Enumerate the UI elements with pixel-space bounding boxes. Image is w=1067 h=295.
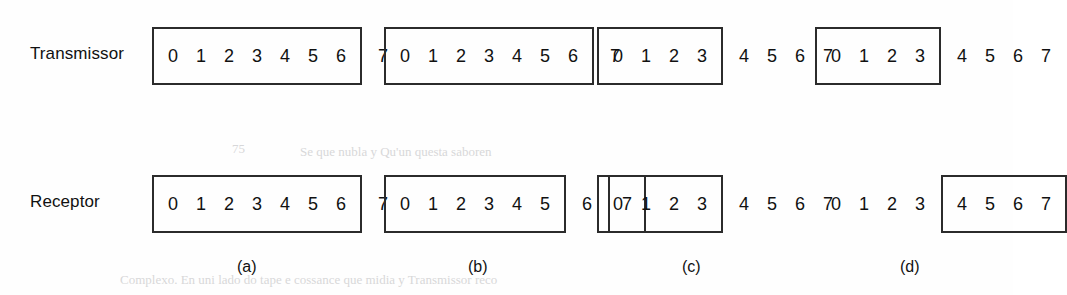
digit: 4 [274, 195, 296, 213]
window-box-transmissor-b: 0123456 [384, 27, 594, 85]
sequence-transmissor-c: 01234567 [597, 27, 849, 85]
digit: 2 [663, 47, 685, 65]
digit: 4 [274, 47, 296, 65]
digit: 0 [825, 47, 847, 65]
digit: 0 [162, 195, 184, 213]
digit: 2 [218, 195, 240, 213]
window-box-transmissor-c: 0123 [597, 27, 723, 85]
digit: 4 [951, 47, 973, 65]
digit: 0 [607, 195, 629, 213]
digit: 6 [789, 195, 811, 213]
digit: 3 [909, 195, 931, 213]
digit: 2 [450, 47, 472, 65]
caption-d: (d) [900, 258, 920, 276]
sequence-receptor-d: 01234567 [815, 175, 1067, 233]
digit: 3 [691, 195, 713, 213]
ghost-text-top: 75 [232, 142, 245, 157]
caption-b: (b) [468, 258, 488, 276]
window-box-transmissor-a: 0123456 [152, 27, 362, 85]
digit: 6 [1007, 195, 1029, 213]
digit: 3 [909, 47, 931, 65]
sequence-receptor-a: 01234567 [152, 175, 404, 233]
digit: 0 [607, 47, 629, 65]
digit: 5 [761, 195, 783, 213]
digit: 5 [761, 47, 783, 65]
digit: 3 [478, 195, 500, 213]
digit: 6 [330, 195, 352, 213]
digit: 1 [422, 195, 444, 213]
digit: 4 [506, 195, 528, 213]
digit: 3 [246, 195, 268, 213]
digit: 0 [394, 47, 416, 65]
digit: 4 [951, 195, 973, 213]
digit: 2 [881, 47, 903, 65]
digit: 3 [246, 47, 268, 65]
digit: 4 [733, 47, 755, 65]
digit: 5 [302, 195, 324, 213]
window-box-receptor-c: 0123 [597, 175, 723, 233]
digit: 2 [663, 195, 685, 213]
row-label-receptor: Receptor [30, 192, 100, 212]
caption-a: (a) [237, 258, 257, 276]
digit: 2 [881, 195, 903, 213]
digit: 5 [534, 47, 556, 65]
window-box-receptor-a: 0123456 [152, 175, 362, 233]
window-box-transmissor-d: 0123 [815, 27, 941, 85]
digit: 5 [979, 47, 1001, 65]
window-box-receptor-d: 4567 [941, 175, 1067, 233]
sequence-transmissor-a: 01234567 [152, 27, 404, 85]
digit: 7 [1035, 195, 1057, 213]
ghost-text-middle: Se que nubla y Qu'un questa saboren [300, 145, 492, 160]
sequence-receptor-c: 01234567 [597, 175, 849, 233]
digit: 6 [330, 47, 352, 65]
ghost-text-bottom: Complexo. En uni lado do tape e cossance… [120, 273, 497, 288]
digit: 6 [789, 47, 811, 65]
row-label-transmissor: Transmissor [30, 44, 124, 64]
digit: 6 [562, 47, 584, 65]
digit: 5 [534, 195, 556, 213]
digit: 5 [302, 47, 324, 65]
digits-outside-window-receptor-d: 0123 [815, 175, 941, 233]
digit: 1 [853, 47, 875, 65]
sequence-transmissor-d: 01234567 [815, 27, 1067, 85]
digit: 3 [691, 47, 713, 65]
digit: 0 [162, 47, 184, 65]
window-box-receptor-b: 012345 [384, 175, 566, 233]
digit: 6 [1007, 47, 1029, 65]
digit: 1 [422, 47, 444, 65]
digit: 1 [635, 47, 657, 65]
digit: 5 [979, 195, 1001, 213]
digit: 4 [506, 47, 528, 65]
digits-outside-window-transmissor-d: 4567 [941, 27, 1067, 85]
digit: 0 [825, 195, 847, 213]
digit: 6 [576, 195, 598, 213]
digit: 1 [190, 195, 212, 213]
digit: 2 [218, 47, 240, 65]
caption-c: (c) [682, 258, 701, 276]
digit: 4 [733, 195, 755, 213]
digit: 2 [450, 195, 472, 213]
digit: 1 [190, 47, 212, 65]
digit: 1 [635, 195, 657, 213]
digit: 1 [853, 195, 875, 213]
digit: 7 [1035, 47, 1057, 65]
digit: 0 [394, 195, 416, 213]
digit: 3 [478, 47, 500, 65]
